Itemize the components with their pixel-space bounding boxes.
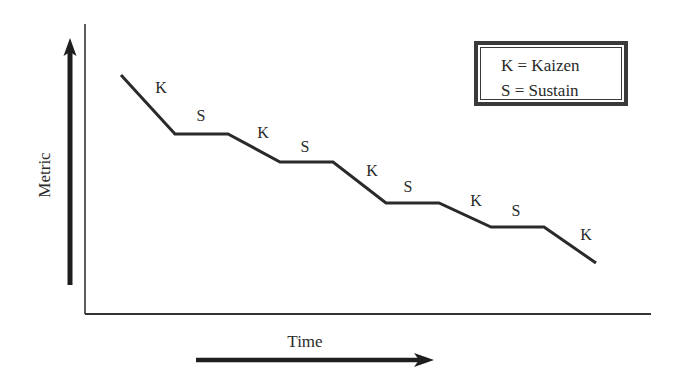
x-axis-label: Time bbox=[287, 332, 322, 352]
phase-label-kaizen: K bbox=[580, 226, 592, 244]
phase-label-kaizen: K bbox=[155, 79, 167, 97]
phase-label-sustain: S bbox=[301, 138, 310, 156]
legend-entry-sustain: S = Sustain bbox=[501, 81, 579, 101]
legend-box: K = Kaizen S = Sustain bbox=[474, 41, 628, 106]
phase-label-sustain: S bbox=[512, 202, 521, 220]
legend-entry-kaizen: K = Kaizen bbox=[501, 56, 580, 76]
phase-label-sustain: S bbox=[197, 107, 206, 125]
phase-label-kaizen: K bbox=[257, 124, 269, 142]
metric-up-arrow-icon bbox=[64, 38, 77, 285]
y-axis-label: Metric bbox=[35, 152, 55, 197]
time-right-arrow-icon bbox=[196, 353, 434, 367]
legend-inner-border: K = Kaizen S = Sustain bbox=[480, 47, 622, 100]
phase-label-kaizen: K bbox=[366, 162, 378, 180]
phase-label-sustain: S bbox=[404, 178, 413, 196]
kaizen-sustain-diagram: Metric Time K S K S K S K S K K = Kaizen… bbox=[0, 0, 680, 389]
phase-label-kaizen: K bbox=[470, 192, 482, 210]
